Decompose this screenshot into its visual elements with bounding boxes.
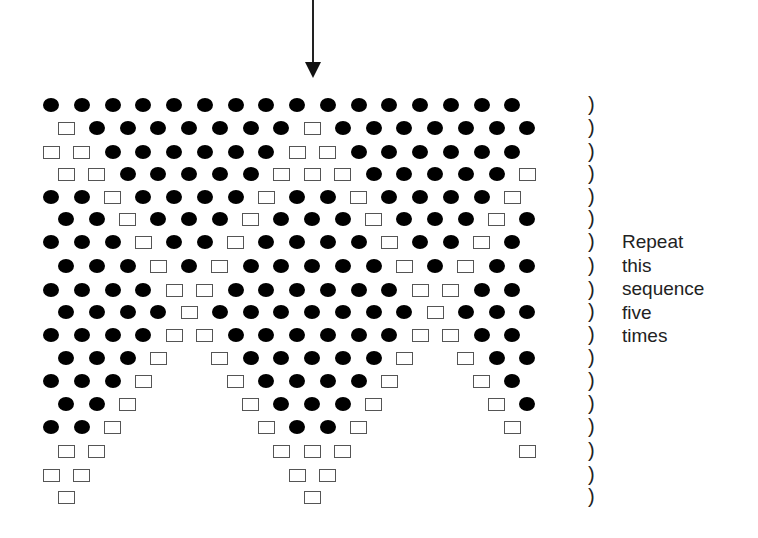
filled-dot [150,305,166,319]
filled-dot [181,121,197,135]
filled-dot [443,98,459,112]
row-bracket: ) [588,117,595,137]
row-bracket: ) [588,301,595,321]
filled-dot [89,121,105,135]
filled-dot [427,167,443,181]
filled-dot [181,259,197,273]
filled-dot [120,167,136,181]
open-square [273,445,290,458]
filled-dot [320,98,336,112]
filled-dot [258,98,274,112]
filled-dot [412,235,428,249]
open-square [304,445,321,458]
open-square [473,236,490,249]
filled-dot [150,212,166,226]
filled-dot [89,351,105,365]
filled-dot [212,212,228,226]
filled-dot [335,121,351,135]
open-square [43,146,60,159]
filled-dot [320,328,336,342]
filled-dot [120,305,136,319]
open-square [304,122,321,135]
filled-dot [381,190,397,204]
filled-dot [89,212,105,226]
filled-dot [320,420,336,434]
filled-dot [273,397,289,411]
filled-dot [320,283,336,297]
open-square [334,445,351,458]
filled-dot [212,121,228,135]
open-square [58,491,75,504]
filled-dot [381,98,397,112]
row-bracket: ) [588,231,595,251]
open-square [350,191,367,204]
filled-dot [504,145,520,159]
filled-dot [228,328,244,342]
open-square [43,469,60,482]
filled-dot [43,374,59,388]
filled-dot [427,212,443,226]
filled-dot [304,397,320,411]
open-square [242,213,259,226]
filled-dot [105,374,121,388]
filled-dot [519,397,535,411]
filled-dot [335,351,351,365]
row-bracket: ) [588,416,595,436]
filled-dot [489,121,505,135]
filled-dot [351,283,367,297]
row-bracket: ) [588,347,595,367]
filled-dot [304,305,320,319]
filled-dot [443,190,459,204]
row-bracket: ) [588,464,595,484]
filled-dot [243,351,259,365]
open-square [211,352,228,365]
filled-dot [228,98,244,112]
filled-dot [396,305,412,319]
filled-dot [181,167,197,181]
open-square [442,329,459,342]
filled-dot [212,167,228,181]
filled-dot [381,328,397,342]
filled-dot [243,167,259,181]
open-square [227,375,244,388]
open-square [289,146,306,159]
open-square [319,146,336,159]
filled-dot [351,374,367,388]
open-square [73,146,90,159]
filled-dot [273,351,289,365]
filled-dot [74,374,90,388]
filled-dot [258,145,274,159]
open-square [58,445,75,458]
filled-dot [43,420,59,434]
filled-dot [58,397,74,411]
open-square [350,421,367,434]
filled-dot [474,283,490,297]
open-square [258,421,275,434]
note-line: Repeat [622,230,704,254]
open-square [242,398,259,411]
filled-dot [58,351,74,365]
filled-dot [105,328,121,342]
filled-dot [135,283,151,297]
filled-dot [105,145,121,159]
filled-dot [58,305,74,319]
filled-dot [351,328,367,342]
filled-dot [43,283,59,297]
filled-dot [304,212,320,226]
open-square [196,329,213,342]
filled-dot [197,235,213,249]
row-bracket: ) [588,440,595,460]
filled-dot [258,374,274,388]
filled-dot [289,98,305,112]
filled-dot [181,212,197,226]
open-square [488,213,505,226]
filled-dot [335,259,351,273]
filled-dot [474,98,490,112]
filled-dot [474,328,490,342]
filled-dot [166,145,182,159]
filled-dot [228,190,244,204]
filled-dot [427,259,443,273]
down-arrow-icon [305,62,321,78]
filled-dot [258,283,274,297]
open-square [211,260,228,273]
